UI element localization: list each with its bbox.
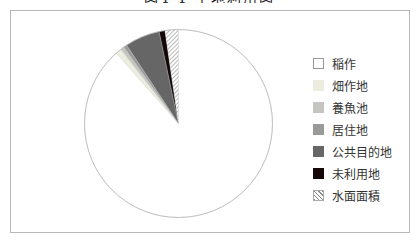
legend: 稲作畑作地養魚池居住地公共目的地未利用地水面面積 (313, 52, 392, 206)
legend-label: 居住地 (332, 121, 368, 138)
legend-item: 養魚池 (313, 96, 392, 118)
legend-item: 公共目的地 (313, 140, 392, 162)
legend-label: 公共目的地 (332, 143, 392, 160)
legend-item: 畑作地 (313, 74, 392, 96)
legend-swatch-icon (313, 58, 324, 69)
legend-label: 未利用地 (332, 165, 380, 182)
legend-label: 畑作地 (332, 77, 368, 94)
legend-item: 居住地 (313, 118, 392, 140)
legend-swatch-icon (313, 80, 324, 91)
legend-item: 水面面積 (313, 184, 392, 206)
legend-label: 水面面積 (332, 187, 380, 204)
legend-swatch-icon (313, 124, 324, 135)
legend-label: 養魚池 (332, 99, 368, 116)
legend-swatch-icon (313, 102, 324, 113)
legend-item: 未利用地 (313, 162, 392, 184)
legend-label: 稲作 (332, 55, 356, 72)
legend-swatch-icon (313, 168, 324, 179)
legend-item: 稲作 (313, 52, 392, 74)
legend-swatch-icon (313, 146, 324, 157)
legend-swatch-icon (313, 190, 324, 201)
